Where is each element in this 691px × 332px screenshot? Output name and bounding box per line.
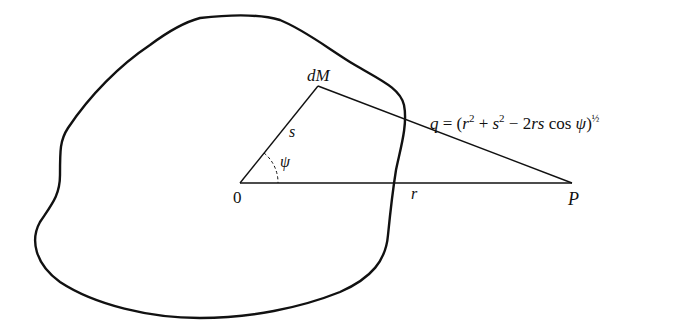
label-p: P [568,190,579,208]
potential-diagram: dM s ψ 0 r P q = (r2 + s2 − 2rs cos ψ)½ [0,0,691,332]
formula-rs: rs [531,114,544,133]
angle-psi-arc [264,153,278,183]
formula-q: q [430,114,439,133]
formula-minus: − 2 [505,114,532,133]
body-outline [35,15,405,318]
formula-psi: ψ [576,114,587,133]
distance-formula: q = (r2 + s2 − 2rs cos ψ)½ [430,114,599,132]
diagram-canvas [0,0,691,332]
label-r: r [411,186,417,202]
segment-s [240,86,318,183]
formula-power: ½ [592,113,600,124]
formula-r: r [462,114,469,133]
formula-equals: = ( [439,114,463,133]
formula-plus: + [474,114,492,133]
segment-q [318,86,572,183]
label-origin: 0 [233,189,242,206]
label-s: s [289,124,295,140]
label-psi: ψ [280,154,290,170]
label-dm: dM [307,67,330,84]
formula-cos: cos [544,114,575,133]
